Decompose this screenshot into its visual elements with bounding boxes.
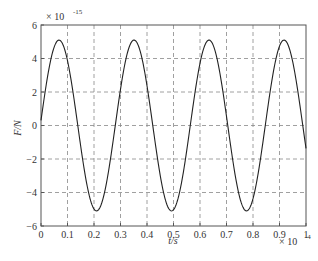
y-tick-label: 6 <box>32 20 37 31</box>
y-multiplier: × 10 -15 <box>46 8 83 22</box>
x-tick-label: 0.1 <box>61 229 74 240</box>
x-tick-label: 0.4 <box>141 229 154 240</box>
x-tick-label: 0.3 <box>114 229 127 240</box>
line-chart: 00.10.20.30.40.50.60.70.80.91 −6−4−20246… <box>0 0 318 261</box>
x-tick-label: 0.8 <box>247 229 260 240</box>
x-multiplier: × 10 -4 <box>279 233 311 247</box>
y-multiplier-base: × 10 <box>46 11 64 22</box>
x-tick-label: 0.7 <box>220 229 233 240</box>
x-axis-label: t/s <box>168 235 178 246</box>
y-tick-label: 4 <box>32 53 37 64</box>
y-tick-label: 0 <box>32 120 37 131</box>
y-multiplier-exp: -15 <box>73 8 83 16</box>
y-tick-label: −2 <box>26 154 37 165</box>
x-multiplier-exp: -4 <box>305 233 311 241</box>
x-multiplier-base: × 10 <box>279 236 297 247</box>
y-tick-label: 2 <box>32 87 37 98</box>
y-tick-label: −6 <box>26 221 37 232</box>
y-axis-label: F/N <box>12 119 23 137</box>
x-tick-label: 0.2 <box>88 229 101 240</box>
y-tick-label: −4 <box>26 187 37 198</box>
x-tick-label: 0 <box>39 229 44 240</box>
grid-lines <box>41 25 306 226</box>
x-tick-label: 0.6 <box>194 229 207 240</box>
